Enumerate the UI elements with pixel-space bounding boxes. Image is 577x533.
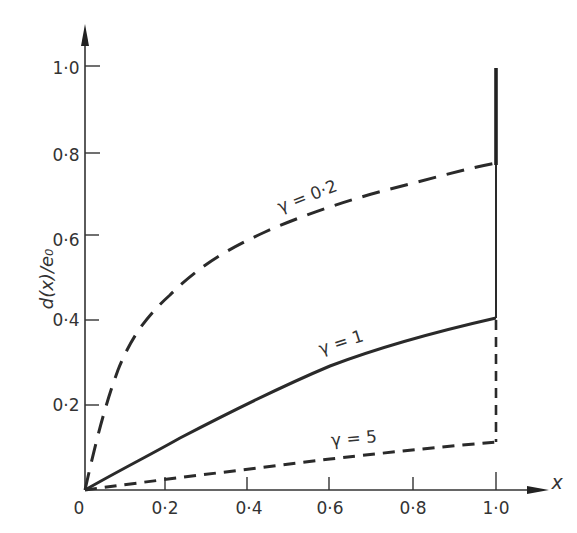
curve-label-gamma-5: γ = 5 xyxy=(330,426,378,450)
y-axis-arrow-icon xyxy=(81,24,89,46)
x-tick-label: 0·4 xyxy=(235,498,262,518)
x-tick-label: 0 xyxy=(74,498,85,518)
y-tick-label: 0·2 xyxy=(52,395,79,415)
y-axis-label: d(x)/e₀ xyxy=(36,249,57,309)
y-tick-label: 0·8 xyxy=(52,145,79,165)
y-tick-label: 0·6 xyxy=(52,230,79,250)
chart-plot-area xyxy=(0,0,577,533)
x-tick-label: 0·2 xyxy=(151,498,178,518)
y-tick-label: 0·4 xyxy=(52,310,79,330)
x-tick-label: 1·0 xyxy=(482,498,509,518)
x-tick-label: 0·8 xyxy=(399,498,426,518)
x-axis-arrow-icon xyxy=(527,486,549,494)
x-axis-label: x xyxy=(551,471,562,493)
x-tick-label: 0·6 xyxy=(316,498,343,518)
y-ticks xyxy=(85,66,100,405)
y-tick-label: 1·0 xyxy=(52,58,79,78)
curve-gamma-5 xyxy=(85,442,496,490)
